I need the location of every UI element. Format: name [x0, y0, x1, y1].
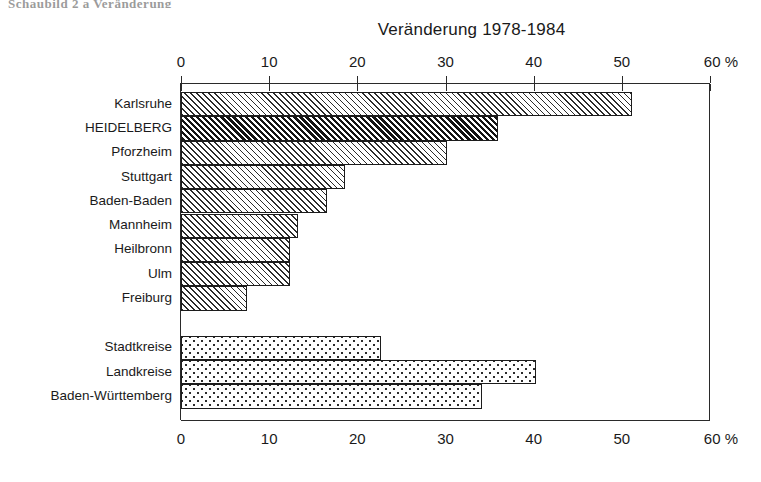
bar-baden-w-rttemberg	[181, 384, 482, 408]
axis-tick-top-20	[357, 76, 358, 83]
category-label-mannheim: Mannheim	[0, 217, 172, 232]
axis-tick-label-bottom-0: 0	[177, 430, 185, 447]
axis-tick-bottom-50	[622, 84, 623, 91]
category-label-heilbronn: Heilbronn	[0, 241, 172, 256]
axis-tick-top-50	[622, 76, 623, 83]
plot-area: 001010202030304040505060 %60 %	[181, 83, 710, 420]
category-label-pforzheim: Pforzheim	[0, 144, 172, 159]
axis-tick-label-top-10: 10	[261, 53, 278, 70]
bar-mannheim	[181, 214, 298, 238]
axis-tick-bottom-30	[446, 84, 447, 91]
bar-baden-baden	[181, 189, 327, 213]
category-label-baden-w-rttemberg: Baden-Württemberg	[0, 388, 172, 403]
bar-heidelberg	[181, 116, 498, 140]
axis-right-rule	[709, 83, 710, 420]
category-label-landkreise: Landkreise	[0, 364, 172, 379]
axis-tick-label-bottom-50: 50	[613, 430, 630, 447]
bar-stuttgart	[181, 165, 345, 189]
bar-freiburg	[181, 286, 247, 310]
category-label-heidelberg: HEIDELBERG	[0, 120, 172, 135]
bar-ulm	[181, 262, 290, 286]
category-label-stadtkreise: Stadtkreise	[0, 339, 172, 354]
axis-tick-label-bottom-30: 30	[437, 430, 454, 447]
bar-heilbronn	[181, 238, 290, 262]
axis-tick-top-0	[181, 76, 182, 83]
axis-tick-bottom-0	[181, 84, 182, 91]
axis-tick-label-top-50: 50	[613, 53, 630, 70]
category-label-baden-baden: Baden-Baden	[0, 193, 172, 208]
page-header-fragment: Schaubild 2 a Veränderung	[8, 0, 248, 8]
axis-bottom	[181, 420, 710, 421]
axis-tick-top-60	[710, 76, 711, 83]
axis-tick-top-30	[446, 76, 447, 83]
bar-stadtkreise	[181, 336, 381, 360]
axis-tick-label-bottom-60: 60 %	[704, 430, 738, 447]
axis-tick-label-bottom-20: 20	[349, 430, 366, 447]
axis-tick-label-top-40: 40	[525, 53, 542, 70]
axis-tick-top-10	[269, 76, 270, 83]
category-label-karlsruhe: Karlsruhe	[0, 96, 172, 111]
category-label-stuttgart: Stuttgart	[0, 169, 172, 184]
chart-figure: Schaubild 2 a Veränderung Veränderung 19…	[0, 0, 761, 482]
axis-tick-label-bottom-40: 40	[525, 430, 542, 447]
axis-tick-bottom-10	[269, 84, 270, 91]
axis-tick-top-40	[534, 76, 535, 83]
bar-karlsruhe	[181, 92, 632, 116]
axis-tick-label-top-0: 0	[177, 53, 185, 70]
axis-tick-bottom-60	[710, 84, 711, 91]
bar-pforzheim	[181, 141, 447, 165]
axis-tick-bottom-20	[357, 84, 358, 91]
axis-tick-label-top-60: 60 %	[704, 53, 738, 70]
axis-tick-label-top-30: 30	[437, 53, 454, 70]
axis-tick-label-bottom-10: 10	[261, 430, 278, 447]
bar-landkreise	[181, 360, 536, 384]
axis-tick-label-top-20: 20	[349, 53, 366, 70]
category-label-freiburg: Freiburg	[0, 290, 172, 305]
axis-tick-bottom-40	[534, 84, 535, 91]
category-label-ulm: Ulm	[0, 266, 172, 281]
chart-title-text: Veränderung 1978-1984	[378, 20, 566, 39]
chart-title: Veränderung 1978-1984	[0, 20, 761, 40]
